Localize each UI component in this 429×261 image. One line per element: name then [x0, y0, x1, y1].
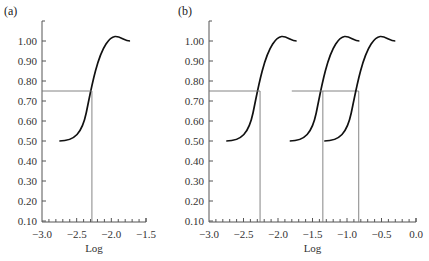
- x-tick-label: −0.5: [372, 228, 392, 240]
- y-tick-label: 0.80: [18, 75, 38, 87]
- y-tick-label: 0.50: [18, 135, 38, 147]
- panel-label: (b): [178, 4, 192, 18]
- x-tick-label: −1.5: [136, 228, 156, 240]
- y-tick-label: 1.00: [18, 35, 38, 47]
- panel-a: (a)0.100.200.300.400.500.600.700.800.901…: [4, 4, 156, 254]
- y-tick-label: 0.70: [18, 95, 38, 107]
- x-tick-label: −2.0: [101, 228, 121, 240]
- x-tick-label: 0.0: [409, 228, 423, 240]
- y-tick-label: 0.40: [185, 155, 205, 167]
- y-tick-label: 0.60: [185, 115, 205, 127]
- x-axis-title: Log: [85, 242, 103, 254]
- x-tick-label: −1.0: [337, 228, 357, 240]
- dose-response-curve: [226, 36, 296, 141]
- x-tick-label: −3.0: [32, 228, 52, 240]
- y-tick-label: 0.10: [18, 215, 38, 227]
- y-tick-label: 0.40: [18, 155, 38, 167]
- y-tick-label: 0.60: [18, 115, 38, 127]
- chart-figure: (a)0.100.200.300.400.500.600.700.800.901…: [0, 0, 429, 261]
- dose-response-curve: [59, 36, 130, 141]
- y-tick-label: 0.30: [185, 175, 205, 187]
- x-tick-label: −2.0: [268, 228, 288, 240]
- x-axis-title: Log: [304, 242, 322, 254]
- x-tick-label: −2.5: [67, 228, 87, 240]
- y-tick-label: 0.20: [18, 195, 38, 207]
- y-tick-label: 0.90: [185, 55, 205, 67]
- y-tick-label: 0.70: [185, 95, 205, 107]
- y-tick-label: 0.20: [185, 195, 205, 207]
- y-tick-label: 0.50: [185, 135, 205, 147]
- y-tick-label: 1.00: [185, 35, 205, 47]
- y-tick-label: 0.90: [18, 55, 38, 67]
- axes: [42, 21, 146, 222]
- x-tick-label: −3.0: [199, 228, 219, 240]
- x-tick-label: −1.5: [303, 228, 323, 240]
- y-tick-label: 0.80: [185, 75, 205, 87]
- dose-response-curve: [324, 36, 395, 141]
- y-tick-label: 0.30: [18, 175, 38, 187]
- dose-response-curve: [290, 36, 360, 141]
- panel-label: (a): [4, 4, 17, 18]
- y-tick-label: 0.10: [185, 215, 205, 227]
- axes: [209, 21, 416, 222]
- panel-b: (b)0.100.200.300.400.500.600.700.800.901…: [178, 4, 423, 254]
- x-tick-label: −2.5: [234, 228, 254, 240]
